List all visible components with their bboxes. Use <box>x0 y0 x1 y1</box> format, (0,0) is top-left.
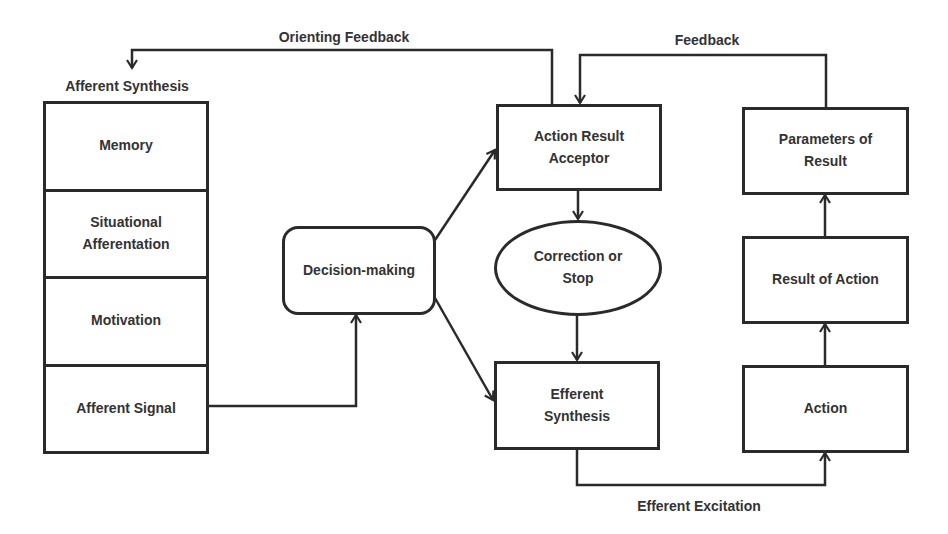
correction-or-stop-node: Correction or Stop <box>494 220 662 316</box>
action-label: Action <box>804 398 848 420</box>
situational-afferentation-cell: Situational Afferentation <box>46 192 206 280</box>
afferent-signal-label: Afferent Signal <box>76 398 176 420</box>
efferent-excitation-label: Efferent Excitation <box>637 497 761 516</box>
afferent-synthesis-stack: Memory Situational Afferentation Motivat… <box>43 101 209 454</box>
result-of-action-node: Result of Action <box>742 236 909 324</box>
afferent-signal-cell: Afferent Signal <box>46 367 206 452</box>
memory-label: Memory <box>99 135 153 157</box>
parameters-of-result-label: Parameters of Result <box>779 129 872 172</box>
decision-to-acceptor-arrow <box>435 150 495 240</box>
parameters-of-result-node: Parameters of Result <box>742 107 909 195</box>
situational-afferentation-label: Situational Afferentation <box>82 212 169 255</box>
memory-cell: Memory <box>46 104 206 192</box>
orienting-feedback-label: Orienting Feedback <box>279 28 410 47</box>
decision-making-label: Decision-making <box>303 260 415 282</box>
action-node: Action <box>742 365 909 453</box>
motivation-cell: Motivation <box>46 279 206 367</box>
decision-to-efferent-synthesis-arrow <box>435 298 493 400</box>
afferent-synthesis-title: Afferent Synthesis <box>65 77 189 96</box>
efferent-synthesis-node: Efferent Synthesis <box>494 361 660 450</box>
result-of-action-label: Result of Action <box>772 269 879 291</box>
decision-making-node: Decision-making <box>282 226 436 315</box>
motivation-label: Motivation <box>91 310 161 332</box>
efferent-excitation-arrow <box>577 449 825 485</box>
efferent-synthesis-label: Efferent Synthesis <box>544 384 610 427</box>
action-result-acceptor-node: Action Result Acceptor <box>496 104 662 191</box>
afferent-signal-to-decision-arrow <box>208 315 356 406</box>
orienting-feedback-arrow <box>132 50 552 105</box>
feedback-label: Feedback <box>675 31 740 50</box>
action-result-acceptor-label: Action Result Acceptor <box>534 126 624 169</box>
correction-or-stop-label: Correction or Stop <box>534 246 623 289</box>
feedback-arrow <box>580 55 826 107</box>
